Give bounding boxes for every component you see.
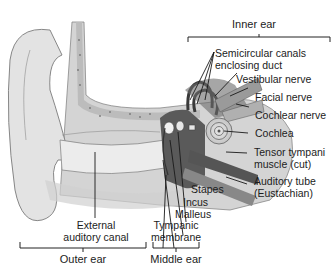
region-label-inner-ear: Inner ear: [232, 18, 276, 30]
label-semicircular-canals-line2: enclosing duct: [215, 59, 282, 71]
label-stapes: Stapes: [191, 183, 224, 195]
label-incus: Incus: [183, 196, 208, 208]
label-external-auditory-canal: External: [58, 219, 134, 231]
label-vestibular-nerve: Vestibular nerve: [236, 73, 311, 85]
label-cochlea: Cochlea: [255, 127, 294, 139]
label-tensor-tympani-line2: muscle (cut): [254, 158, 311, 170]
label-tympanic-membrane: Tympanic: [148, 219, 204, 231]
label-tensor-tympani: Tensor tympani: [254, 146, 325, 158]
region-label-outer-ear: Outer ear: [53, 253, 113, 265]
label-auditory-tube-line2: (Eustachian): [254, 187, 313, 199]
region-label-middle-ear: Middle ear: [146, 253, 206, 265]
label-semicircular-canals: Semicircular canals: [215, 47, 306, 59]
label-auditory-tube: Auditory tube: [254, 175, 316, 187]
label-facial-nerve: Facial nerve: [255, 91, 312, 103]
label-cochlear-nerve: Cochlear nerve: [255, 109, 326, 121]
label-external-auditory-canal-line2: auditory canal: [58, 231, 134, 243]
label-tympanic-membrane-line2: membrane: [148, 231, 204, 243]
